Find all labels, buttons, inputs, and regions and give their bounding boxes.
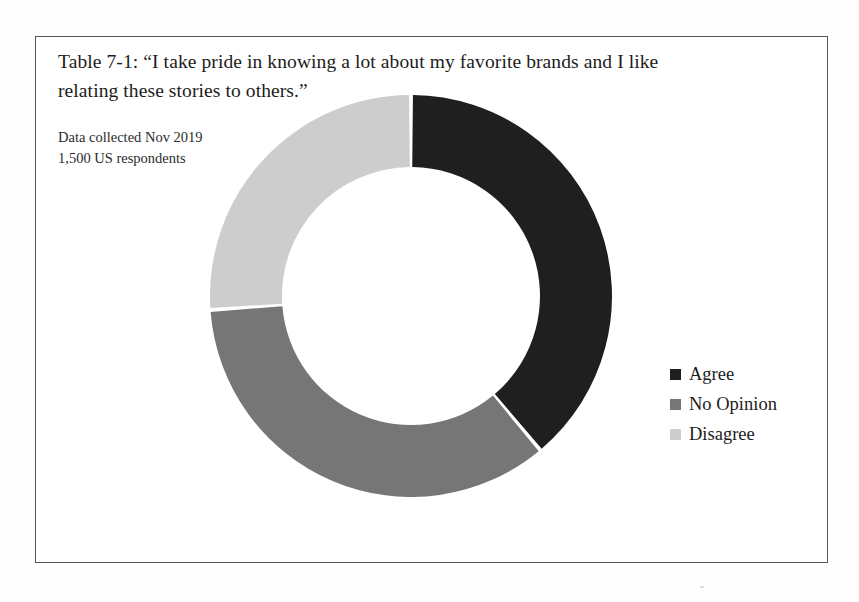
legend-label-no-opinion: No Opinion [689,393,777,415]
donut-slice-no-opinion[interactable] [211,306,539,497]
donut-slice-group [210,95,612,497]
figure-frame: Table 7-1: “I take pride in knowing a lo… [35,36,828,563]
scan-speckle [700,586,704,588]
legend-item-agree[interactable]: Agree [670,359,820,389]
page-canvas: Table 7-1: “I take pride in knowing a lo… [0,0,859,602]
chart-legend: Agree No Opinion Disagree [670,359,820,449]
legend-label-disagree: Disagree [689,423,755,445]
donut-slice-disagree[interactable] [210,95,410,308]
legend-swatch-no-opinion [670,399,681,410]
legend-swatch-disagree [670,429,681,440]
legend-swatch-agree [670,369,681,380]
legend-label-agree: Agree [689,363,734,385]
donut-chart-area [210,95,612,497]
donut-chart [210,95,612,497]
donut-slice-agree[interactable] [412,95,612,449]
legend-item-no-opinion[interactable]: No Opinion [670,389,820,419]
legend-item-disagree[interactable]: Disagree [670,419,820,449]
